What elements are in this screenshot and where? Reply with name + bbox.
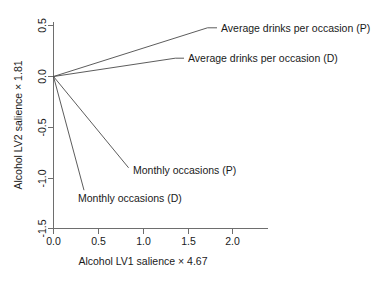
y-axis-title: Alcohol LV2 salience × 1.81 — [12, 60, 24, 189]
y-tick-label-0: 0.5 — [36, 18, 48, 33]
vector-avg-drinks-p — [54, 28, 208, 77]
vector-monthly-d — [54, 77, 85, 191]
x-tick-label-4: 2.0 — [225, 235, 240, 247]
plot-canvas: 0.5 0.0 -0.5 -1.0 -1.5 0.0 0.5 1.0 1.5 2… — [0, 0, 372, 281]
vector-monthly-p — [54, 77, 129, 168]
x-tick-label-1: 0.5 — [91, 235, 106, 247]
y-tick-label-1: 0.0 — [36, 69, 48, 84]
series-label-avg-drinks-d: Average drinks per occasion (D) — [188, 52, 338, 64]
series-label-monthly-p: Monthly occasions (P) — [133, 164, 236, 176]
x-tick-label-0: 0.0 — [46, 235, 61, 247]
y-tick-label-2: -0.5 — [36, 118, 48, 136]
series-label-monthly-d: Monthly occasions (D) — [78, 192, 182, 204]
x-axis-title: Alcohol LV1 salience × 4.67 — [78, 255, 207, 267]
vector-avg-drinks-d — [54, 58, 176, 76]
x-tick-label-2: 1.0 — [136, 235, 151, 247]
chart-figure: 0.5 0.0 -0.5 -1.0 -1.5 0.0 0.5 1.0 1.5 2… — [0, 0, 372, 281]
y-tick-label-3: -1.0 — [36, 169, 48, 187]
x-tick-label-3: 1.5 — [181, 235, 196, 247]
series-label-avg-drinks-p: Average drinks per occasion (P) — [221, 22, 370, 34]
